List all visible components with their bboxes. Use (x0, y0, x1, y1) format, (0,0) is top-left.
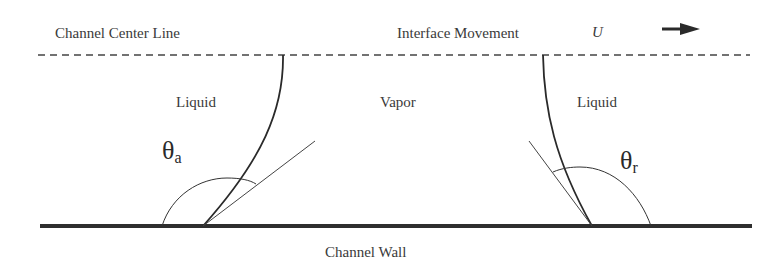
advancing-angle-symbol: θ (162, 136, 174, 165)
channel-wall-label: Channel Wall (325, 245, 406, 260)
interface-movement-label: Interface Movement (397, 26, 519, 41)
velocity-symbol: U (592, 25, 603, 40)
liquid-left-label: Liquid (176, 95, 216, 110)
right-tangent-line (529, 141, 592, 226)
vapor-label: Vapor (380, 95, 416, 110)
left-meniscus-curve (203, 55, 283, 226)
liquid-right-label: Liquid (577, 95, 617, 110)
channel-center-line-label: Channel Center Line (55, 26, 180, 41)
advancing-angle-label: θa (162, 138, 182, 166)
advancing-angle-subscript: a (174, 149, 181, 166)
receding-angle-label: θr (620, 148, 638, 176)
right-meniscus-curve (543, 55, 592, 226)
contact-angle-diagram: Channel Center Line Interface Movement U… (0, 0, 783, 269)
receding-angle-symbol: θ (620, 146, 632, 175)
receding-angle-subscript: r (632, 159, 637, 176)
left-tangent-line (203, 141, 315, 226)
arrow-right-icon (662, 23, 700, 35)
